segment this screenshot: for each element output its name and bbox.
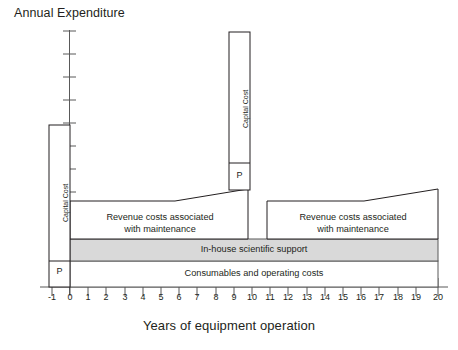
bar-capital-cost-replacement-label: Capital Cost	[242, 90, 249, 128]
chart-container: Annual Expenditure	[0, 0, 458, 350]
bar-capital-cost-initial-p-label: P	[49, 266, 70, 276]
revenue-label-line2: with maintenance	[270, 223, 436, 235]
revenue-label-line2: with maintenance	[75, 223, 245, 235]
x-axis-tick-label-20: 20	[427, 292, 449, 302]
area-revenue-costs-cycle-1-label: Revenue costs associated with maintenanc…	[75, 211, 245, 235]
bar-capital-cost-initial-label: Capital Cost	[62, 184, 69, 222]
x-axis-title: Years of equipment operation	[0, 318, 458, 333]
band-consumables-and-operating-costs-label: Consumables and operating costs	[70, 268, 438, 278]
x-axis-tick-label-19: 19	[405, 292, 427, 302]
band-in-house-scientific-support-label: In-house scientific support	[70, 244, 438, 254]
area-revenue-costs-cycle-2-label: Revenue costs associated with maintenanc…	[270, 211, 436, 235]
revenue-label-line1: Revenue costs associated	[75, 211, 245, 223]
bar-capital-cost-replacement-p-label: P	[229, 170, 250, 180]
revenue-label-line1: Revenue costs associated	[270, 211, 436, 223]
